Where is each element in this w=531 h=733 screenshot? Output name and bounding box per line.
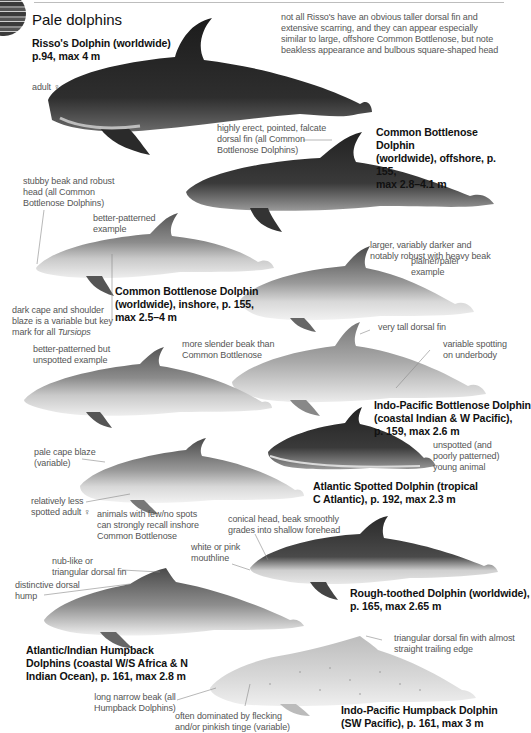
note-line: pale cape blaze [34, 447, 96, 458]
species-name: Common Bottlenose Dolphin [376, 126, 502, 152]
note-line: head (all Common [23, 187, 114, 198]
species-label-rough-toothed: Rough-toothed Dolphin (worldwide), p. 16… [350, 587, 530, 613]
note-line: dark cape and shoulder [12, 305, 113, 316]
note-line: poorly patterned) [433, 451, 499, 462]
note-line: larger, variably darker and [370, 240, 491, 251]
note-line: dorsal fin (all Common [217, 134, 326, 145]
atlantic-indian-humpback-illustration [44, 568, 304, 648]
note-plainer-paler: plainer/paler example [411, 256, 459, 278]
genus-name: Tursiops [58, 327, 91, 337]
species-details: (worldwide), offshore, p. 155, [376, 152, 502, 178]
species-details: Dolphins (coastal W/S Africa & N [26, 657, 188, 670]
note-line: triangular dorsal fin [52, 567, 126, 578]
note-line: mark for all Tursiops [12, 327, 113, 338]
note-line: spotted adult ♀ [31, 507, 90, 518]
note-line: triangular dorsal fin with almost [394, 633, 515, 644]
species-details: (coastal Indian & W Pacific), [374, 412, 531, 425]
note-less-spotted: relatively less spotted adult ♀ [31, 496, 90, 518]
note-line: stubby beak and robust [23, 176, 114, 187]
note-line: unspotted (and [433, 440, 499, 451]
note-falcate-fin: highly erect, pointed, falcate dorsal fi… [217, 123, 326, 156]
note-nub-fin: nub-like or triangular dorsal fin [52, 556, 126, 578]
note-few-spots: animals with few/no spots can strongly r… [97, 509, 199, 542]
species-details: C Atlantic), p. 192, max 2.3 m [313, 493, 478, 506]
species-details: p.94, max 4 m [32, 50, 171, 63]
note-line: young animal [433, 462, 499, 473]
note-better-unspotted: better-patterned but unspotted example [33, 344, 110, 366]
note-line: Common Bottlenose [182, 350, 274, 361]
note-line: relatively less [31, 496, 90, 507]
note-line: long narrow beak (all [94, 692, 176, 703]
atlantic-spotted-adult-illustration [80, 438, 304, 514]
species-label-rissos: Risso's Dolphin (worldwide) p.94, max 4 … [32, 37, 171, 63]
note-line: Bottlenose Dolphins) [217, 145, 326, 156]
note-very-tall-fin: very tall dorsal fin [378, 322, 446, 333]
species-name: Common Bottlenose Dolphin [115, 285, 258, 298]
species-label-indo-pacific-humpback: Indo-Pacific Humpback Dolphin (SW Pacifi… [341, 704, 498, 730]
note-line: extensive scarring, and they can appear … [281, 23, 498, 34]
note-slender-beak: more slender beak than Common Bottlenose [182, 339, 274, 361]
note-line: better-patterned but [33, 344, 110, 355]
note-triangular-fin: triangular dorsal fin with almost straig… [394, 633, 515, 655]
note-line: Humpback Dolphins) [94, 703, 176, 714]
note-line: straight trailing edge [394, 644, 515, 655]
note-line: and/or pinkish tinge (variable) [175, 722, 290, 733]
species-name: Indo-Pacific Humpback Dolphin [341, 704, 498, 717]
note-line: can strongly recall inshore [97, 520, 199, 531]
note-line: hump [15, 591, 80, 602]
note-line: highly erect, pointed, falcate [217, 123, 326, 134]
species-label-atlantic-indian-humpback: Atlantic/Indian Humpback Dolphins (coast… [26, 644, 188, 683]
note-dark-cape: dark cape and shoulder blaze is a variab… [12, 305, 113, 338]
note-line: variable spotting [443, 339, 507, 350]
species-size: Indian Ocean), p. 161, max 2.8 m [26, 670, 188, 683]
species-size: p. 159, max 2.6 m [374, 425, 531, 438]
note-rissos-description: not all Risso's have an obvious taller d… [281, 12, 498, 56]
species-size: max 2.8–4.1 m [376, 178, 502, 191]
note-line: beakless appearance and bulbous square-s… [281, 45, 498, 56]
note-line: plainer/paler [411, 256, 459, 267]
note-line: not all Risso's have an obvious taller d… [281, 12, 498, 23]
species-name: Indo-Pacific Bottlenose Dolphin [374, 399, 531, 412]
note-line: more slender beak than [182, 339, 274, 350]
note-line: grades into shallow forehead [228, 525, 340, 536]
note-stubby-beak: stubby beak and robust head (all Common … [23, 176, 114, 209]
note-pale-cape: pale cape blaze (variable) [34, 447, 96, 469]
note-line: white or pink [191, 542, 240, 553]
species-label-common-bottlenose-offshore: Common Bottlenose Dolphin (worldwide), o… [376, 126, 502, 191]
note-long-beak: long narrow beak (all Humpback Dolphins) [94, 692, 176, 714]
note-conical-head: conical head, beak smoothly grades into … [228, 514, 340, 536]
note-line: example [93, 224, 155, 235]
note-line: Common Bottlenose [97, 531, 199, 542]
note-unspotted-young: unspotted (and poorly patterned) young a… [433, 440, 499, 473]
note-text: mark for all [12, 327, 58, 337]
note-line: on underbody [443, 350, 507, 361]
note-line: blaze is a variable but key [12, 316, 113, 327]
species-name: Atlantic Spotted Dolphin (tropical [313, 480, 478, 493]
note-line: animals with few/no spots [97, 509, 199, 520]
note-better-patterned: better-patterned example [93, 213, 155, 235]
note-line: nub-like or [52, 556, 126, 567]
note-flecking: often dominated by flecking and/or pinki… [175, 711, 290, 733]
note-line: distinctive dorsal [15, 580, 80, 591]
species-name: Atlantic/Indian Humpback [26, 644, 188, 657]
note-mouthline: white or pink mouthline [191, 542, 240, 564]
species-details: (worldwide), inshore, p. 155, [115, 298, 258, 311]
note-line: mouthline [191, 553, 240, 564]
note-rissos-adult: adult ♀ [32, 82, 60, 93]
note-line: better-patterned [93, 213, 155, 224]
note-line: (variable) [34, 458, 96, 469]
species-name: Rough-toothed Dolphin (worldwide), [350, 587, 530, 600]
note-line: often dominated by flecking [175, 711, 290, 722]
note-variable-spotting: variable spotting on underbody [443, 339, 507, 361]
note-line: example [411, 267, 459, 278]
species-details: p. 165, max 2.65 m [350, 600, 530, 613]
note-line: similar to large, offshore Common Bottle… [281, 34, 498, 45]
species-label-atlantic-spotted: Atlantic Spotted Dolphin (tropical C Atl… [313, 480, 478, 506]
note-dorsal-hump: distinctive dorsal hump [15, 580, 80, 602]
note-line: unspotted example [33, 355, 110, 366]
note-line: Bottlenose Dolphins) [23, 198, 114, 209]
species-details: (SW Pacific), p. 161, max 3 m [341, 717, 498, 730]
species-name: Risso's Dolphin (worldwide) [32, 37, 171, 50]
note-line: conical head, beak smoothly [228, 514, 340, 525]
